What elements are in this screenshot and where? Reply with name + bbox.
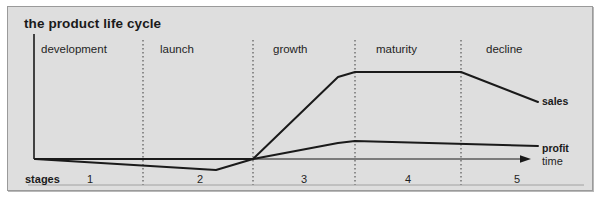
product-life-cycle-figure: the product life cycle development launc…: [7, 6, 593, 191]
life-cycle-plot: [8, 7, 594, 192]
x-axis-arrowhead: [520, 155, 531, 163]
sales-curve: [35, 72, 538, 159]
stage-number-4: 4: [396, 173, 420, 185]
profit-curve: [35, 141, 538, 170]
series-label-profit: profit: [542, 142, 569, 154]
stages-row-label: stages: [25, 173, 60, 185]
series-label-sales: sales: [542, 95, 568, 107]
stage-number-3: 3: [292, 173, 316, 185]
stage-number-5: 5: [505, 173, 529, 185]
x-axis-label-time: time: [542, 155, 563, 167]
stage-number-1: 1: [78, 173, 102, 185]
stage-number-2: 2: [188, 173, 212, 185]
